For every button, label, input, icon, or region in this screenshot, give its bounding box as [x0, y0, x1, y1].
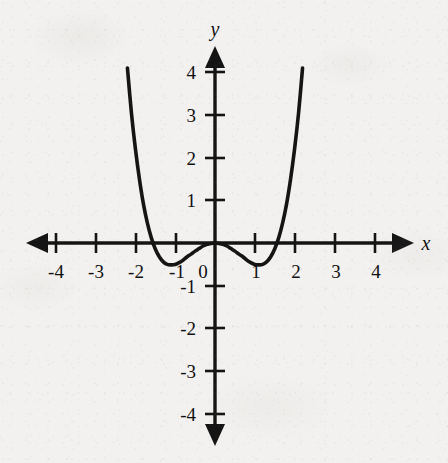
x-axis-right-arrow-icon [392, 233, 414, 253]
y-tick-label--3: -3 [180, 361, 196, 382]
y-axis-label: y [209, 18, 220, 41]
x-tick-label--4: -4 [48, 261, 64, 282]
origin-label: 0 [198, 261, 208, 282]
x-tick-label-4: 4 [371, 261, 381, 282]
y-tick-label-3: 3 [187, 105, 197, 126]
y-axis-top-arrow-icon [205, 46, 225, 68]
y-axis-bottom-arrow-icon [205, 424, 225, 446]
y-tick-label--1: -1 [180, 276, 196, 297]
x-tick-label-2: 2 [291, 261, 301, 282]
x-axis-label: x [421, 232, 431, 254]
x-tick-label--3: -3 [88, 261, 104, 282]
y-tick-label--4: -4 [180, 404, 196, 425]
x-tick-label--2: -2 [128, 261, 144, 282]
cartesian-plot: -4 -3 -2 -1 1 2 3 4 0 4 3 2 1 -1 -2 -3 -… [0, 0, 448, 463]
y-tick-label--2: -2 [180, 318, 196, 339]
y-tick-label-1: 1 [187, 190, 197, 211]
y-tick-label-2: 2 [187, 148, 197, 169]
graph-figure: -4 -3 -2 -1 1 2 3 4 0 4 3 2 1 -1 -2 -3 -… [0, 0, 448, 463]
x-tick-label-1: 1 [251, 261, 261, 282]
y-tick-label-4: 4 [187, 62, 197, 83]
y-axis-group [205, 46, 225, 446]
x-axis-left-arrow-icon [26, 233, 48, 253]
x-tick-label-3: 3 [331, 261, 341, 282]
